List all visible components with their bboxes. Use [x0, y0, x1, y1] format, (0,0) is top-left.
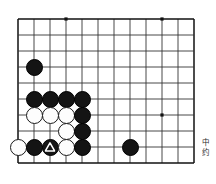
star-point — [160, 113, 163, 116]
stone-black[interactable] — [26, 91, 43, 108]
triangle-marker-icon — [45, 142, 56, 153]
stone-black[interactable] — [74, 123, 91, 140]
stone-black[interactable] — [26, 139, 43, 156]
stone-black[interactable] — [26, 59, 43, 76]
stone-black[interactable] — [74, 139, 91, 156]
go-board-figure: 中 约 — [0, 0, 216, 184]
stone-white[interactable] — [58, 139, 75, 156]
stone-black[interactable] — [122, 139, 139, 156]
star-point — [64, 17, 67, 20]
stone-black[interactable] — [74, 91, 91, 108]
stone-black[interactable] — [58, 91, 75, 108]
caption-line-2: 约 — [202, 148, 216, 158]
stone-black[interactable] — [42, 139, 59, 156]
stone-black[interactable] — [74, 107, 91, 124]
stone-white[interactable] — [58, 107, 75, 124]
stone-black[interactable] — [42, 91, 59, 108]
stone-white[interactable] — [10, 139, 27, 156]
go-board[interactable] — [14, 16, 208, 172]
caption-line-1: 中 — [202, 138, 216, 148]
stone-white[interactable] — [26, 107, 43, 124]
side-caption: 中 约 — [202, 138, 216, 157]
stone-white[interactable] — [58, 123, 75, 140]
stone-white[interactable] — [42, 107, 59, 124]
star-point — [160, 17, 163, 20]
